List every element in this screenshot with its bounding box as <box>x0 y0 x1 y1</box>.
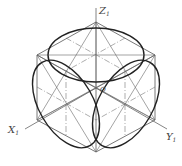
diagram-canvas: Z1 X1 Y1 O <box>0 0 182 166</box>
origin-label: O <box>100 86 106 94</box>
y-axis-label: Y1 <box>166 131 176 143</box>
z-axis-label: Z1 <box>98 5 110 17</box>
isometric-cube-diagram: Z1 X1 Y1 O <box>0 0 182 166</box>
x-axis-label: X1 <box>7 124 19 136</box>
